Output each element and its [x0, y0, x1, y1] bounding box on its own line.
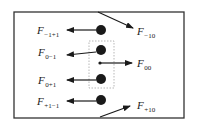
force-label: F00: [136, 57, 152, 72]
force-label: F−10: [136, 25, 156, 40]
nodes: [96, 25, 106, 105]
force-label: F0+1: [37, 74, 57, 89]
particle-node: [96, 45, 106, 55]
particle-node: [96, 25, 106, 35]
particle-node: [96, 95, 106, 105]
force-labels: F−1+1F−10F0−1F00F0+1F+1−1F+10: [36, 24, 156, 114]
force-diagram: F−1+1F−10F0−1F00F0+1F+1−1F+10: [0, 0, 198, 127]
force-arrow: [100, 106, 130, 117]
force-label: F0−1: [37, 46, 57, 61]
force-arrow: [67, 52, 96, 55]
force-label: F+10: [136, 99, 156, 114]
force-label: F−1+1: [36, 24, 60, 39]
force-label: F+1−1: [36, 95, 60, 110]
particle-node: [96, 74, 106, 84]
